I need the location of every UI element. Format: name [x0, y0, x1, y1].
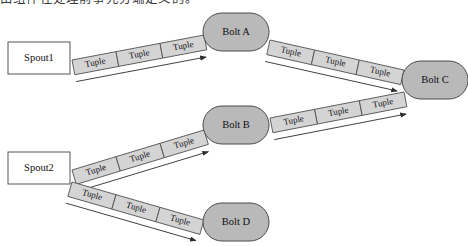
tuple-stream: TupleTupleTuple [72, 35, 207, 82]
spout-node-spout2[interactable]: Spout2 [8, 152, 70, 184]
spout-node-spout1[interactable]: Spout1 [8, 42, 70, 74]
topology-diagram: TupleTupleTupleTupleTupleTupleTupleTuple… [0, 0, 468, 246]
spout-label: Spout1 [24, 52, 54, 63]
tuple-stream: TupleTupleTuple [66, 182, 204, 241]
bolt-node-bolt-d[interactable]: Bolt D [203, 203, 269, 241]
bolt-node-bolt-b[interactable]: Bolt B [203, 106, 269, 144]
tuple-stream: TupleTupleTuple [72, 130, 208, 191]
spout-label: Spout2 [24, 162, 54, 173]
bolt-label: Bolt A [222, 26, 250, 37]
bolt-node-bolt-a[interactable]: Bolt A [203, 13, 269, 51]
tuple-stream: TupleTupleTuple [270, 92, 407, 140]
diagram-canvas: TupleTupleTupleTupleTupleTupleTupleTuple… [0, 0, 468, 246]
bolt-label: Bolt B [222, 119, 250, 130]
bolt-node-bolt-c[interactable]: Bolt C [402, 61, 468, 99]
tuple-stream: TupleTupleTuple [265, 40, 404, 91]
bolt-label: Bolt D [222, 216, 251, 227]
bolt-label: Bolt C [421, 74, 449, 85]
